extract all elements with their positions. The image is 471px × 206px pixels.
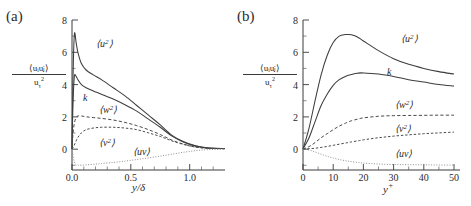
reynolds-stress-figure: (a) ⟨uᵢuⱼ⟩ uτ2 y/δ: [0, 0, 471, 206]
panel-a-xtick-2: 1.0: [183, 172, 196, 183]
panel-b-xtick-50: 50: [449, 172, 459, 183]
label-uv-panel-a: ⟨uv⟩: [133, 146, 150, 157]
panel-b: (b) ⟨uᵢuⱼ⟩ uτ2 y+: [235, 0, 470, 206]
label-k-panel-b: k: [387, 66, 392, 77]
label-uu-panel-b: ⟨u2⟩: [401, 33, 418, 44]
curve-uu-panel-a: [72, 33, 225, 149]
panel-b-ytick-0: 0: [293, 144, 298, 155]
panel-a-ytick-0: 0: [62, 144, 67, 155]
panel-b-xtick-20: 20: [358, 172, 368, 183]
panel-a-xtick-0: 0.0: [66, 172, 79, 183]
curve-k-panel-b: [303, 73, 454, 149]
label-ww-panel-b: ⟨w2⟩: [395, 99, 413, 110]
curve-k-panel-a: [72, 74, 225, 149]
curve-ww-panel-b: [303, 115, 454, 149]
panel-b-curve-annotations: ⟨u2⟩ k ⟨w2⟩ ⟨v2⟩ ⟨uv⟩: [387, 33, 418, 159]
panel-b-x-tick-labels: 0 10 20 30 40 50: [301, 172, 460, 183]
curve-uv-panel-b: [303, 149, 454, 165]
label-ww-panel-a: ⟨w2⟩: [99, 104, 117, 115]
panel-b-ytick-4: 4: [293, 80, 298, 91]
panel-a-y-tick-labels: 8 6 4 2 0: [62, 15, 67, 155]
panel-b-y-tick-labels: 8 6 4 2 0: [293, 15, 298, 155]
label-vv-panel-b: ⟨v2⟩: [395, 123, 411, 134]
curve-vv-panel-b: [303, 132, 454, 149]
panel-b-ytick-6: 6: [293, 47, 298, 58]
panel-b-ytick-8: 8: [293, 15, 298, 26]
panel-a-ytick-8: 8: [62, 15, 67, 26]
panel-b-ytick-2: 2: [293, 112, 298, 123]
label-uu-panel-a: ⟨u2⟩: [96, 38, 113, 49]
panel-a-plot: 8 6 4 2 0 0.0 0.5 1.0 ⟨u2⟩ k ⟨: [0, 0, 235, 206]
panel-b-xtick-40: 40: [419, 172, 429, 183]
panel-b-xtick-10: 10: [328, 172, 338, 183]
panel-b-xtick-30: 30: [389, 172, 399, 183]
panel-a-x-tick-labels: 0.0 0.5 1.0: [66, 172, 196, 183]
panel-a-xtick-1: 0.5: [125, 172, 138, 183]
panel-b-xtick-0: 0: [301, 172, 306, 183]
label-vv-panel-a: ⟨v2⟩: [99, 137, 115, 148]
label-uv-panel-b: ⟨uv⟩: [395, 148, 412, 159]
curve-uu-panel-b: [303, 34, 454, 149]
panel-b-plot: 8 6 4 2 0 0 10 20 30 40 50: [235, 0, 470, 206]
panel-a-curve-annotations: ⟨u2⟩ k ⟨w2⟩ ⟨v2⟩ ⟨uv⟩: [83, 38, 150, 157]
panel-a-ytick-2: 2: [62, 112, 67, 123]
panel-b-curves: [303, 34, 454, 165]
panel-a: (a) ⟨uᵢuⱼ⟩ uτ2 y/δ: [0, 0, 235, 206]
panel-a-ytick-4: 4: [62, 80, 67, 91]
label-k-panel-a: k: [83, 92, 88, 103]
panel-a-ytick-6: 6: [62, 47, 67, 58]
